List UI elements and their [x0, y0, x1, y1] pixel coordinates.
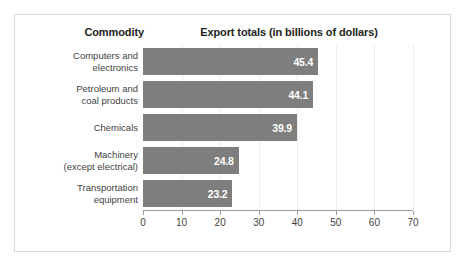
chart-frame: Commodity Export totals (in billions of … — [14, 14, 451, 252]
category-label-line: Transportation — [77, 182, 138, 194]
bar-track: 44.1 — [143, 78, 452, 111]
bar-value-label: 23.2 — [208, 188, 228, 200]
x-axis-tick — [143, 211, 144, 215]
x-axis-tick-label: 50 — [321, 217, 351, 228]
commodity-column-header: Commodity — [15, 26, 144, 38]
x-axis-tick — [413, 211, 414, 215]
bar-value-label: 39.9 — [272, 122, 292, 134]
x-axis-tick — [182, 211, 183, 215]
x-axis-tick — [297, 211, 298, 215]
bar[interactable]: 45.4 — [143, 48, 318, 75]
x-axis-line — [143, 210, 413, 211]
category-label-line: Computers and — [73, 50, 138, 62]
x-axis-tick — [336, 211, 337, 215]
bar-track: 23.2 — [143, 177, 452, 210]
x-axis-tick-label: 40 — [282, 217, 312, 228]
plot-area: Computers andelectronics45.4Petroleum an… — [15, 45, 452, 253]
bar-row[interactable]: Petroleum andcoal products44.1 — [15, 78, 452, 111]
category-label-line: Chemicals — [94, 122, 138, 134]
category-label-line: (except electrical) — [64, 161, 138, 173]
x-axis-tick-label: 70 — [398, 217, 428, 228]
category-label: Petroleum andcoal products — [15, 78, 138, 111]
category-label: Chemicals — [15, 111, 138, 144]
category-label-line: Machinery — [94, 149, 138, 161]
x-axis-tick-label: 0 — [128, 217, 158, 228]
x-axis: 010203040506070 — [15, 210, 452, 250]
x-axis-tick-label: 60 — [359, 217, 389, 228]
bar-track: 45.4 — [143, 45, 452, 78]
bar[interactable]: 24.8 — [143, 147, 239, 174]
x-axis-tick — [220, 211, 221, 215]
bar-track: 24.8 — [143, 144, 452, 177]
bar-value-label: 24.8 — [214, 155, 234, 167]
category-label-line: Petroleum and — [76, 83, 138, 95]
category-label-line: equipment — [94, 194, 138, 206]
bar-value-label: 45.4 — [293, 56, 313, 68]
x-axis-tick-label: 30 — [244, 217, 274, 228]
bar-row[interactable]: Transportationequipment23.2 — [15, 177, 452, 210]
category-label: Transportationequipment — [15, 177, 138, 210]
x-axis-tick — [259, 211, 260, 215]
category-label: Computers andelectronics — [15, 45, 138, 78]
category-label-line: coal products — [81, 95, 138, 107]
column-headers: Commodity Export totals (in billions of … — [15, 26, 450, 44]
bar[interactable]: 23.2 — [143, 180, 232, 207]
export-totals-column-header: Export totals (in billions of dollars) — [144, 26, 434, 38]
bar-track: 39.9 — [143, 111, 452, 144]
category-label: Machinery(except electrical) — [15, 144, 138, 177]
bar[interactable]: 44.1 — [143, 81, 313, 108]
bar-rows: Computers andelectronics45.4Petroleum an… — [15, 45, 452, 210]
bar-row[interactable]: Computers andelectronics45.4 — [15, 45, 452, 78]
bar[interactable]: 39.9 — [143, 114, 297, 141]
bar-row[interactable]: Machinery(except electrical)24.8 — [15, 144, 452, 177]
bar-row[interactable]: Chemicals39.9 — [15, 111, 452, 144]
category-label-line: electronics — [93, 62, 138, 74]
x-axis-tick — [374, 211, 375, 215]
x-axis-tick-label: 10 — [167, 217, 197, 228]
x-axis-tick-label: 20 — [205, 217, 235, 228]
bar-value-label: 44.1 — [288, 89, 308, 101]
